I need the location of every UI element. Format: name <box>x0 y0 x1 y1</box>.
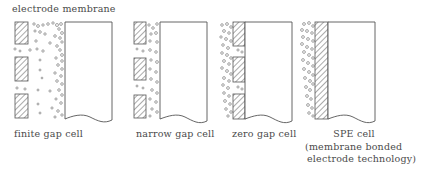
electrode-segment <box>233 94 245 119</box>
electrode-segment <box>233 22 245 46</box>
finite-gap-cell-drawing <box>14 22 112 122</box>
spe-cell-sublabel-2: electrode technology) <box>307 153 416 164</box>
membrane <box>65 22 112 122</box>
gas-bubbles <box>301 22 315 118</box>
narrow-gap-cell-drawing <box>134 22 207 123</box>
electrode-segment <box>15 94 28 118</box>
membrane <box>245 22 292 123</box>
zero-gap-cell-label: zero gap cell <box>232 128 296 139</box>
spe-cell-label: SPE cell <box>328 128 380 139</box>
narrow-gap-cell-label: narrow gap cell <box>136 128 215 139</box>
spe-cell-sublabel-1: (membrane bonded <box>305 141 402 152</box>
electrode-segment <box>15 57 28 81</box>
electrode-segment <box>134 95 146 118</box>
electrode-segment <box>134 58 146 80</box>
electrode-segment <box>15 22 28 44</box>
membrane <box>160 22 207 123</box>
electrode-segment <box>134 22 146 44</box>
electrode-segment <box>233 57 245 82</box>
zero-gap-cell-drawing <box>220 22 292 123</box>
bonded-electrode <box>315 22 328 119</box>
finite-gap-cell-label: finite gap cell <box>14 128 83 139</box>
membrane <box>328 22 375 123</box>
spe-cell-drawing <box>301 22 375 123</box>
